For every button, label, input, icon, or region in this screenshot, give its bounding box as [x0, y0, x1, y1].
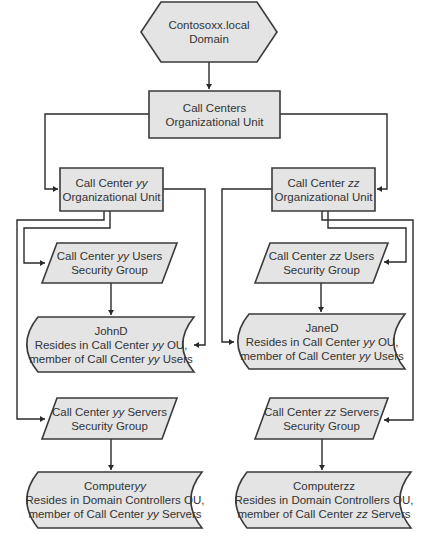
hexagon-shape — [141, 2, 277, 62]
node-label-line: Organizational Unit — [275, 191, 374, 203]
node-label-line: JaneD — [305, 322, 338, 334]
node-label-line: member of Call Center yy Users — [240, 350, 404, 362]
node-label-line: Call Center zz Servers — [264, 406, 379, 418]
node-johnd: JohnDResides in Call Center yy OU,member… — [27, 317, 194, 372]
node-cc-zz-ou: Call Center zzOrganizational Unit — [272, 168, 375, 211]
node-label-line: Resides in Domain Controllers OU, — [26, 494, 205, 506]
node-label-line: Organizational Unit — [63, 191, 162, 203]
arrowhead-icon — [40, 260, 45, 266]
rectangle-shape — [60, 168, 163, 211]
node-cc-yy-servers-group: Call Center yy ServersSecurity Group — [42, 398, 177, 439]
node-label-line: Call Center yy Users — [57, 250, 163, 262]
node-label-line: member of Call Center yy Users — [29, 353, 193, 365]
node-label-line: Security Group — [283, 264, 360, 276]
arrowhead-icon — [53, 186, 58, 192]
node-cc-yy-ou: Call Center yyOrganizational Unit — [60, 168, 163, 211]
node-cc-zz-servers-group: Call Center zz ServersSecurity Group — [255, 398, 388, 439]
node-label-line: Security Group — [283, 420, 360, 432]
node-label-line: Resides in Call Center yy OU, — [35, 339, 188, 351]
arrowhead-icon — [377, 186, 382, 192]
node-cc-zz-users-group: Call Center zz UsersSecurity Group — [255, 243, 388, 283]
arrowhead-icon — [384, 259, 389, 265]
node-label-line: Call Center zz — [287, 177, 359, 189]
node-call-centers-ou: Call CentersOrganizational Unit — [149, 91, 280, 138]
node-label-line: member of Call Center yy Servers — [28, 508, 201, 520]
shapes: Contosoxx.localDomainCall CentersOrganiz… — [26, 2, 414, 528]
node-computerzz: ComputerzzResides in Domain Controllers … — [235, 472, 414, 528]
node-label-line: Call Center yy Servers — [52, 406, 167, 418]
node-domain: Contosoxx.localDomain — [141, 2, 277, 62]
arrowhead-icon — [108, 310, 114, 315]
edge-domain-to-call-centers — [206, 62, 212, 89]
node-label-line: Computeryy — [84, 480, 147, 492]
rectangle-shape — [149, 91, 280, 138]
node-cc-yy-users-group: Call Center yy UsersSecurity Group — [42, 243, 177, 283]
ad-structure-diagram: Contosoxx.localDomainCall CentersOrganiz… — [0, 0, 427, 540]
arrowhead-icon — [40, 416, 45, 422]
edge-yy-servers-to-computeryy — [108, 439, 114, 470]
parallelogram-shape — [42, 243, 177, 283]
node-label-line: Computerzz — [293, 480, 355, 492]
node-label-line: Security Group — [71, 264, 148, 276]
parallelogram-shape — [255, 398, 388, 439]
node-label-line: Contosoxx.local — [168, 19, 249, 31]
node-label-line: JohnD — [94, 325, 127, 337]
rectangle-shape — [272, 168, 375, 211]
node-label-line: Resides in Domain Controllers OU, — [235, 494, 414, 506]
parallelogram-shape — [255, 243, 388, 283]
node-label-line: Organizational Unit — [166, 116, 265, 128]
arrowhead-icon — [206, 84, 212, 89]
arrowhead-icon — [318, 307, 324, 312]
node-label-line: Security Group — [71, 420, 148, 432]
edge-zz-users-to-janed — [318, 283, 324, 312]
node-janed: JaneDResides in Call Center yy OU,member… — [238, 314, 405, 369]
node-label-line: Domain — [189, 33, 229, 45]
node-label-line: Resides in Call Center yy OU, — [246, 336, 399, 348]
node-label-line: Call Center zz Users — [269, 250, 375, 262]
arrowhead-icon — [229, 339, 234, 345]
arrowhead-icon — [384, 417, 389, 423]
parallelogram-shape — [42, 398, 177, 439]
arrowhead-icon — [194, 342, 199, 348]
node-label-line: Call Center yy — [75, 177, 148, 189]
node-label-line: member of Call Center zz Servers — [237, 508, 410, 520]
edge-zz-servers-to-computerzz — [319, 439, 325, 470]
arrowhead-icon — [108, 465, 114, 470]
arrowhead-icon — [319, 465, 325, 470]
node-label-line: Call Centers — [183, 102, 247, 114]
node-computeryy: ComputeryyResides in Domain Controllers … — [26, 472, 205, 528]
edge-yy-users-to-johnd — [108, 283, 114, 315]
